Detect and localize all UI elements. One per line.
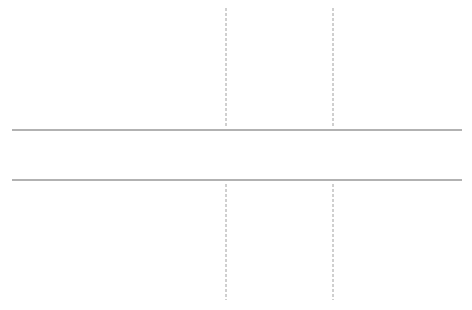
separator-lines — [12, 8, 462, 300]
tutte-polynomial-diagram — [0, 0, 472, 310]
